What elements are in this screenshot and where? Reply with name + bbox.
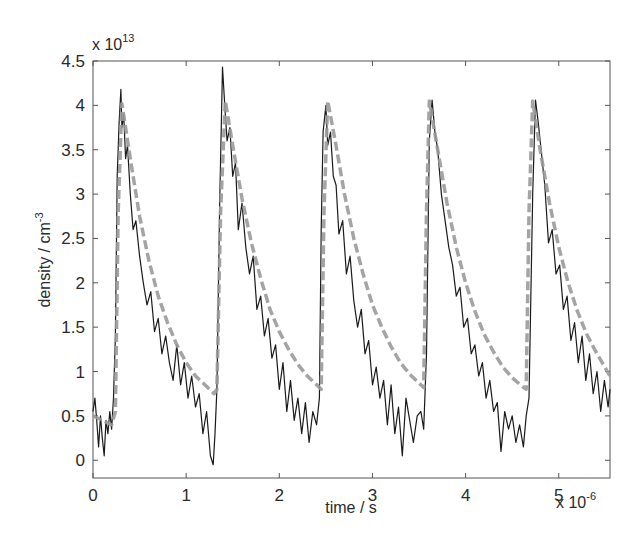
y-tick-label: 0 xyxy=(76,451,85,470)
y-tick-label: 3 xyxy=(76,185,85,204)
y-axis-label: density / cm-3 xyxy=(33,212,53,307)
y-tick-label: 3.5 xyxy=(61,141,85,160)
y-tick-label: 4 xyxy=(76,96,85,115)
series-layer xyxy=(93,67,610,465)
y-multiplier: x 1013 xyxy=(92,32,135,53)
x-axis-ticks: 012345 xyxy=(88,61,563,505)
density-time-chart: 012345 00.511.522.533.544.5 x 1013 x 10-… xyxy=(0,0,644,560)
x-multiplier: x 10-6 xyxy=(556,490,596,511)
x-tick-label: 1 xyxy=(181,486,190,505)
x-tick-label: 4 xyxy=(461,486,470,505)
y-tick-label: 4.5 xyxy=(61,52,85,71)
series-model-line xyxy=(93,101,610,425)
y-tick-label: 0.5 xyxy=(61,407,85,426)
y-tick-label: 1.5 xyxy=(61,318,85,337)
y-tick-label: 1 xyxy=(76,363,85,382)
y-tick-label: 2 xyxy=(76,274,85,293)
y-tick-label: 2.5 xyxy=(61,229,85,248)
x-axis-label: time / s xyxy=(325,499,377,516)
plot-area: 012345 00.511.522.533.544.5 xyxy=(61,52,610,505)
x-tick-label: 0 xyxy=(88,486,97,505)
x-tick-label: 2 xyxy=(275,486,284,505)
